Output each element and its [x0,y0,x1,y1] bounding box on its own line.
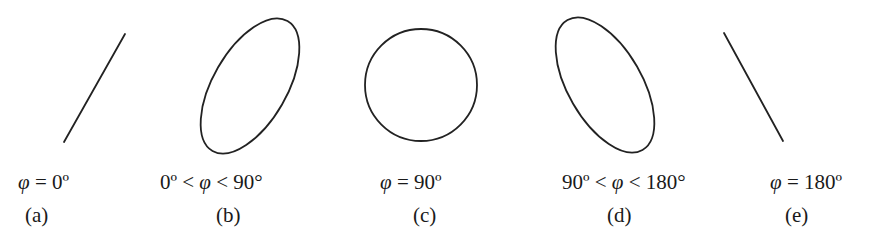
panel-d-caption: (d) [607,205,632,226]
panel-b-ellipse [180,3,319,170]
phi-symbol: φ [380,170,392,194]
panel-a-condition: φ = 0º [18,172,69,193]
panel-c-caption: (c) [413,205,436,226]
phi-symbol: φ [770,170,782,194]
phi-symbol: φ [612,170,624,194]
panel-b-caption: (b) [216,205,241,226]
condition-suffix: = 180º [782,170,842,194]
condition-suffix: = 90º [392,170,442,194]
panel-c-condition: φ = 90º [380,172,441,193]
panel-a-line [64,34,125,142]
panel-e-caption: (e) [785,205,808,226]
panel-b-condition: 0º < φ < 90° [160,172,263,193]
phi-symbol: φ [18,170,30,194]
panel-c-circle [365,29,477,141]
condition-prefix: 0º < [160,170,199,194]
panel-e-line [724,33,783,141]
phi-symbol: φ [199,170,211,194]
lissajous-figures [0,0,873,243]
panel-a-caption: (a) [25,205,48,226]
condition-suffix: < 180° [623,170,685,194]
panel-d-ellipse [535,2,674,169]
condition-prefix: 90º < [562,170,612,194]
panel-d-condition: 90º < φ < 180° [562,172,686,193]
condition-suffix: = 0º [30,170,69,194]
panel-e-condition: φ = 180º [770,172,842,193]
condition-suffix: < 90° [211,170,263,194]
